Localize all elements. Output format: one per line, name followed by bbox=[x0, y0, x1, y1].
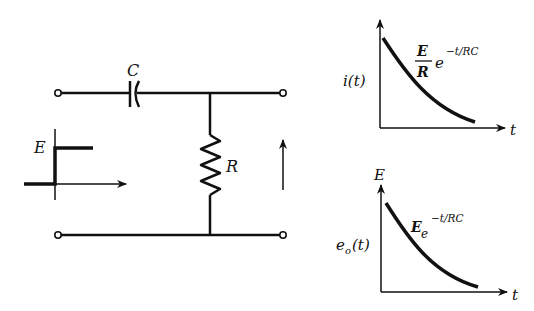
graph1-formula-denominator: R bbox=[416, 64, 429, 80]
resistor-label: R bbox=[225, 157, 238, 176]
graph2-x-label: t bbox=[512, 286, 519, 304]
resistor-zigzag bbox=[201, 135, 220, 195]
graph1-x-label: t bbox=[510, 121, 517, 139]
graph2-formula-exponent: −t/RC bbox=[431, 212, 464, 224]
graph2-y-label-arg: (t) bbox=[352, 236, 370, 254]
graph1-formula-base: e bbox=[435, 54, 444, 72]
rc-differentiator-figure: C R E i(t) t E R e −t/RC E e o (t) t E e… bbox=[0, 0, 534, 311]
graph2-y-label-sub: o bbox=[345, 245, 351, 256]
graph-output bbox=[381, 185, 507, 292]
capacitor-label: C bbox=[127, 61, 139, 80]
graph2-y-label-main: e bbox=[336, 236, 345, 254]
terminal-in-top bbox=[55, 90, 61, 96]
graph1-formula-numerator: E bbox=[416, 43, 428, 59]
terminal-out-top bbox=[280, 90, 286, 96]
graph-current bbox=[380, 20, 505, 128]
terminal-out-bottom bbox=[280, 232, 286, 238]
graph1-y-label: i(t) bbox=[343, 72, 366, 90]
graph2-y-top-label: E bbox=[373, 166, 385, 184]
circuit bbox=[24, 81, 286, 238]
figure-svg: C R E i(t) t E R e −t/RC E e o (t) t E e… bbox=[0, 0, 534, 311]
terminal-in-bottom bbox=[55, 232, 61, 238]
graph1-formula-exponent: −t/RC bbox=[446, 45, 479, 57]
step-amplitude-label: E bbox=[33, 138, 46, 157]
graph2-formula-base: e bbox=[421, 227, 428, 241]
